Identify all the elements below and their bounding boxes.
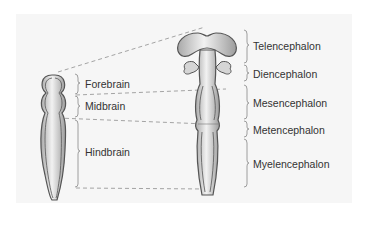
label-forebrain: Forebrain <box>85 78 130 90</box>
three-vesicle-braces <box>75 74 80 187</box>
three-vesicle-tube <box>41 75 66 200</box>
label-telencephalon: Telencephalon <box>253 40 321 52</box>
label-hindbrain: Hindbrain <box>85 146 130 158</box>
label-mesencephalon: Mesencephalon <box>253 97 327 109</box>
brain-vesicle-illustration <box>0 0 370 225</box>
label-metencephalon: Metencephalon <box>253 124 325 136</box>
label-midbrain: Midbrain <box>85 100 125 112</box>
five-vesicle-tube <box>178 33 237 195</box>
label-myelencephalon: Myelencephalon <box>253 158 329 170</box>
label-diencephalon: Diencephalon <box>253 68 317 80</box>
five-vesicle-braces <box>244 30 249 187</box>
